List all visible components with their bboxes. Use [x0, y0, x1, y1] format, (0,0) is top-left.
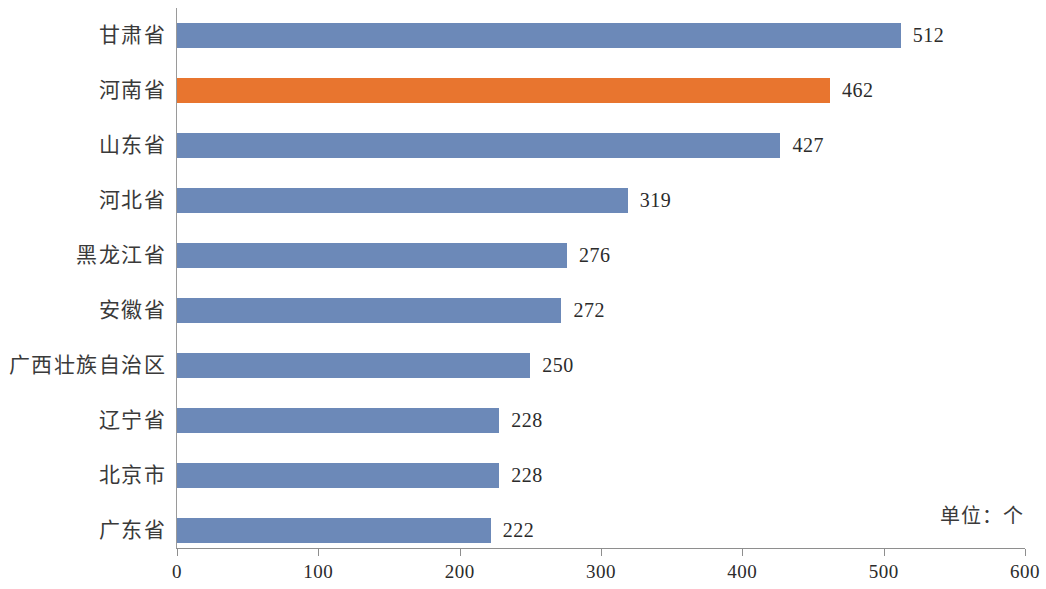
category-label: 广东省 — [0, 518, 166, 543]
x-axis-tick — [177, 549, 178, 556]
bar — [177, 188, 628, 213]
bar-row: 黑龙江省276 — [0, 243, 1046, 268]
x-axis-tick — [1025, 549, 1026, 556]
bar-row: 甘肃省512 — [0, 23, 1046, 48]
x-axis-tick — [460, 549, 461, 556]
bar-highlighted — [177, 78, 830, 103]
bar-row: 山东省427 — [0, 133, 1046, 158]
x-axis-tick — [601, 549, 602, 556]
bar-value-label: 276 — [579, 243, 611, 268]
x-axis-tick — [884, 549, 885, 556]
bar — [177, 463, 499, 488]
bar — [177, 408, 499, 433]
bar — [177, 133, 780, 158]
x-axis-tick — [318, 549, 319, 556]
bar-value-label: 272 — [573, 298, 605, 323]
bar-row: 广东省222 — [0, 518, 1046, 543]
bar — [177, 518, 491, 543]
bar-value-label: 462 — [842, 78, 874, 103]
x-axis-tick-label: 0 — [172, 561, 182, 583]
x-axis-tick-label: 600 — [1010, 561, 1040, 583]
bar-value-label: 222 — [503, 518, 535, 543]
category-label: 广西壮族自治区 — [0, 353, 166, 378]
bar-row: 河北省319 — [0, 188, 1046, 213]
x-axis-tick-label: 500 — [869, 561, 899, 583]
bar-value-label: 319 — [640, 188, 672, 213]
bar-row: 安徽省272 — [0, 298, 1046, 323]
x-axis-tick — [742, 549, 743, 556]
category-label: 黑龙江省 — [0, 243, 166, 268]
category-label: 山东省 — [0, 133, 166, 158]
x-axis-tick-label: 400 — [727, 561, 757, 583]
bar-row: 北京市228 — [0, 463, 1046, 488]
plot-area: 0100200300400500600 甘肃省512河南省462山东省427河北… — [0, 0, 1046, 589]
category-label: 安徽省 — [0, 298, 166, 323]
bar — [177, 243, 567, 268]
unit-note: 单位：个 — [940, 500, 1024, 529]
category-label: 河北省 — [0, 188, 166, 213]
bar-value-label: 250 — [542, 353, 574, 378]
x-axis-tick-label: 300 — [586, 561, 616, 583]
x-axis-tick-label: 100 — [303, 561, 333, 583]
category-label: 辽宁省 — [0, 408, 166, 433]
bar-chart: 0100200300400500600 甘肃省512河南省462山东省427河北… — [0, 0, 1046, 589]
bar-row: 河南省462 — [0, 78, 1046, 103]
bar — [177, 298, 561, 323]
bar-value-label: 228 — [511, 463, 543, 488]
bar-value-label: 512 — [913, 23, 945, 48]
category-label: 甘肃省 — [0, 23, 166, 48]
x-axis-tick-label: 200 — [445, 561, 475, 583]
bar-value-label: 228 — [511, 408, 543, 433]
category-label: 北京市 — [0, 463, 166, 488]
bar-row: 广西壮族自治区250 — [0, 353, 1046, 378]
bar — [177, 353, 530, 378]
category-label: 河南省 — [0, 78, 166, 103]
bar-value-label: 427 — [792, 133, 824, 158]
bar — [177, 23, 901, 48]
bar-row: 辽宁省228 — [0, 408, 1046, 433]
